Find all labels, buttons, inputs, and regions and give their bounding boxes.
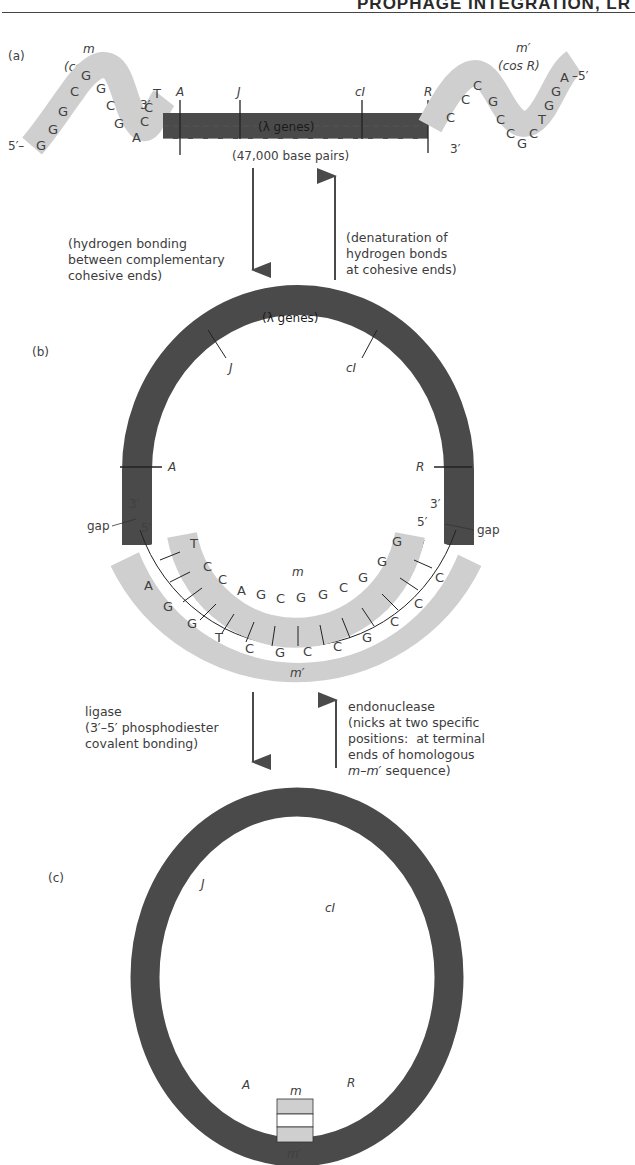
ligase-note: ligase (3′–5′ phosphodiester covalent bo… bbox=[85, 704, 219, 752]
marker-r: R bbox=[424, 85, 432, 99]
svg-text:C: C bbox=[496, 112, 505, 127]
svg-text:C: C bbox=[390, 614, 399, 629]
right-end-name: m′ bbox=[516, 41, 531, 55]
svg-text:C: C bbox=[276, 591, 285, 606]
svg-text:C: C bbox=[70, 84, 79, 99]
left-three-prime: 3′ bbox=[140, 98, 151, 112]
svg-text:C: C bbox=[529, 126, 538, 141]
svg-text:G: G bbox=[517, 136, 527, 151]
panel-a-label: (a) bbox=[8, 49, 25, 63]
svg-text:C: C bbox=[435, 570, 444, 585]
right-end-site: (cos R) bbox=[498, 59, 540, 73]
svg-text:C: C bbox=[506, 126, 515, 141]
inner-strand-band bbox=[182, 535, 410, 633]
panel-b: (b) (λ genes) J cI A R bbox=[32, 300, 500, 680]
ring-c-marker-a: A bbox=[241, 1078, 250, 1092]
ring-c-marker-r: R bbox=[347, 1076, 355, 1090]
sequence-tail: sequence) bbox=[381, 763, 450, 778]
hydrogen-bonding-note: (hydrogen bonding between complementary … bbox=[68, 236, 225, 284]
svg-text:G: G bbox=[358, 570, 368, 585]
right-three-prime: 3′ bbox=[450, 142, 461, 156]
ring-genes-label: (λ genes) bbox=[262, 311, 319, 325]
svg-text:C: C bbox=[446, 110, 455, 125]
svg-text:C: C bbox=[140, 114, 149, 129]
svg-text:G: G bbox=[362, 630, 372, 645]
svg-text:C: C bbox=[414, 596, 423, 611]
svg-text:G: G bbox=[392, 534, 402, 549]
svg-text:G: G bbox=[114, 116, 124, 131]
genes-label: (λ genes) bbox=[258, 120, 315, 134]
svg-text:T: T bbox=[537, 112, 546, 127]
inner-strand-name: m bbox=[292, 565, 304, 579]
lambda-ring-dark bbox=[137, 300, 459, 545]
svg-text:C: C bbox=[203, 559, 212, 574]
left-five-prime: 5′– bbox=[8, 139, 24, 153]
outer-strand-name: m′ bbox=[290, 666, 305, 680]
ring-c-marker-j: J bbox=[199, 877, 205, 891]
endonuclease-note: endonuclease (nicks at two specific posi… bbox=[348, 699, 485, 779]
svg-text:G: G bbox=[296, 590, 306, 605]
ring-marker-r: R bbox=[416, 460, 424, 474]
marker-j: J bbox=[235, 85, 241, 99]
diagram-canvas: (a) m (cos L) G G G C G G C G A C C T 5′… bbox=[0, 0, 635, 1165]
left-five-prime-b: 5′ bbox=[141, 521, 152, 535]
svg-text:G: G bbox=[187, 616, 197, 631]
denaturation-note: (denaturation of hydrogen bonds at cohes… bbox=[346, 230, 457, 278]
svg-text:G: G bbox=[544, 98, 554, 113]
svg-text:G: G bbox=[81, 68, 91, 83]
svg-text:G: G bbox=[318, 587, 328, 602]
svg-text:C: C bbox=[106, 98, 115, 113]
left-gap-label: gap bbox=[87, 519, 110, 533]
length-label: (47,000 base pairs) bbox=[232, 149, 349, 163]
svg-text:G: G bbox=[36, 138, 46, 153]
joint-m-label: m bbox=[290, 1084, 302, 1098]
svg-text:A: A bbox=[144, 578, 153, 593]
panel-c-label: (c) bbox=[48, 871, 64, 885]
left-end-name: m bbox=[83, 42, 95, 56]
ligated-joint bbox=[277, 1099, 313, 1142]
svg-text:C: C bbox=[339, 580, 348, 595]
svg-text:A: A bbox=[237, 583, 246, 598]
svg-text:C: C bbox=[333, 639, 342, 654]
marker-ci: cI bbox=[355, 85, 366, 99]
panel-b-label: (b) bbox=[32, 345, 49, 359]
ring-c-marker-ci: cI bbox=[325, 901, 336, 915]
right-five-prime: –5′ bbox=[572, 69, 589, 83]
svg-text:A: A bbox=[560, 70, 569, 85]
marker-a: A bbox=[175, 85, 184, 99]
panel-c: (c) J cI A R m m′ bbox=[48, 802, 449, 1161]
svg-text:G: G bbox=[163, 599, 173, 614]
svg-text:T: T bbox=[152, 86, 161, 101]
svg-text:C: C bbox=[218, 572, 227, 587]
ring-marker-j: J bbox=[227, 361, 233, 375]
svg-text:G: G bbox=[488, 94, 498, 109]
ring-marker-a: A bbox=[167, 460, 176, 474]
left-three-prime-b: 3′ bbox=[129, 497, 140, 511]
svg-text:C: C bbox=[473, 78, 482, 93]
lambda-circularization-figure: PROPHAGE INTEGRATION, LR (a) m (cos L) G… bbox=[0, 0, 635, 1165]
svg-text:G: G bbox=[48, 122, 58, 137]
right-five-prime-b: 5′ bbox=[417, 515, 428, 529]
svg-text:G: G bbox=[58, 104, 68, 119]
joint-m-prime-label: m′ bbox=[287, 1147, 302, 1161]
svg-text:G: G bbox=[256, 587, 266, 602]
svg-text:T: T bbox=[189, 536, 198, 551]
svg-text:G: G bbox=[551, 84, 561, 99]
endonuclease-text: endonuclease (nicks at two specific posi… bbox=[348, 699, 485, 762]
right-three-prime-b: 3′ bbox=[430, 497, 441, 511]
svg-text:C: C bbox=[461, 92, 470, 107]
svg-text:T: T bbox=[214, 630, 223, 645]
svg-text:G: G bbox=[96, 81, 106, 96]
right-gap-label: gap bbox=[477, 523, 500, 537]
svg-text:G: G bbox=[377, 554, 387, 569]
m-m-prime-term: m–m′ bbox=[348, 763, 381, 778]
svg-text:C: C bbox=[245, 641, 254, 656]
ring-marker-ci: cI bbox=[346, 361, 357, 375]
svg-text:C: C bbox=[303, 644, 312, 659]
panel-a: (a) m (cos L) G G G C G G C G A C C T 5′… bbox=[8, 41, 589, 163]
svg-text:G: G bbox=[275, 645, 285, 660]
svg-text:A: A bbox=[132, 130, 141, 145]
